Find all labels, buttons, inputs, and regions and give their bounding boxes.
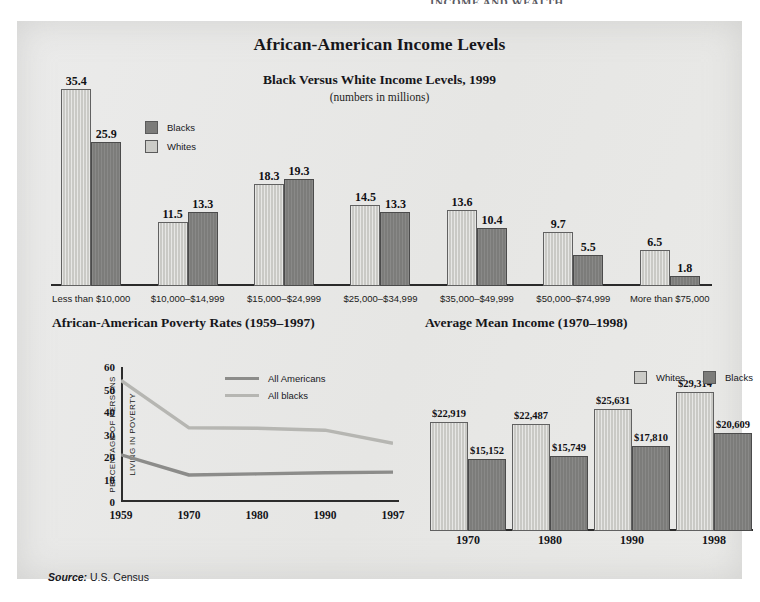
legend-item-whites-income: Whites	[634, 371, 685, 384]
chart1-bar-value-label: 5.5	[581, 240, 596, 255]
legend-line-all-blacks-icon	[225, 394, 259, 398]
chart1-group: 35.425.9	[43, 86, 139, 286]
legend-label-blacks-income: Blacks	[725, 372, 753, 383]
chart1-bar-blacks: 13.3	[380, 212, 410, 286]
figure-panel: African-American Income Levels Black Ver…	[17, 21, 742, 579]
chart1-bar-value-label: 1.8	[677, 261, 692, 276]
chart3-title: Average Mean Income (1970–1998)	[425, 315, 628, 331]
legend-swatch-whites-income-icon	[634, 371, 647, 384]
chart1-group: 18.319.3	[236, 86, 332, 286]
legend-label-whites: Whites	[167, 141, 196, 152]
chart3-bar-whites: $25,631	[594, 409, 632, 531]
chart1-bar-whites: 9.7	[543, 232, 573, 286]
chart3-bar-pair: $29,314$20,609	[673, 379, 755, 531]
chart1-category-label: $25,000–$34,999	[332, 293, 428, 304]
chart2-legend: All Americans All blacks	[225, 373, 326, 407]
chart1-bar-pair: 6.51.8	[622, 86, 718, 286]
chart1-bar-value-label: 35.4	[66, 74, 87, 89]
chart3-bar-whites: $22,487	[512, 424, 550, 531]
chart1-category-label: $15,000–$24,999	[236, 293, 332, 304]
chart3-group: $25,631$17,810	[591, 379, 673, 531]
legend-swatch-whites-icon	[145, 140, 158, 153]
legend-item-blacks: Blacks	[145, 121, 255, 134]
chart1-category-label: $35,000–$49,999	[429, 293, 525, 304]
chart2-title: African-American Poverty Rates (1959–199…	[52, 315, 315, 331]
legend-label-blacks: Blacks	[167, 122, 195, 133]
chart3-group: $22,919$15,152	[427, 379, 509, 531]
legend-item-whites: Whites	[145, 140, 255, 153]
chart2-x-tick-label: 1959	[110, 509, 133, 521]
chart1-legend: Blacks Whites	[145, 121, 255, 159]
chart1-bar-value-label: 13.3	[385, 197, 406, 212]
chart3-group: $22,487$15,749	[509, 379, 591, 531]
chart3-bar-pair: $22,487$15,749	[509, 379, 591, 531]
legend-swatch-blacks-income-icon	[703, 371, 716, 384]
chart1-bar-value-label: 13.6	[451, 195, 472, 210]
legend-label-all-blacks: All blacks	[268, 390, 308, 401]
chart2-x-tick-label: 1990	[314, 509, 337, 521]
legend-label-all-americans: All Americans	[268, 373, 326, 384]
chart1-group: 9.75.5	[525, 86, 621, 286]
chart1-bar-whites: 13.6	[447, 210, 477, 286]
chart1-bar-blacks: 1.8	[670, 276, 700, 286]
chart1-category-label: More than $75,000	[622, 293, 718, 304]
chart2-line-all-americans	[121, 455, 393, 475]
legend-item-all-blacks: All blacks	[225, 390, 326, 401]
chart1-bar-blacks: 19.3	[284, 179, 314, 286]
chart1-bar-pair: 18.319.3	[236, 86, 332, 286]
chart3-bar-pair: $22,919$15,152	[427, 379, 509, 531]
chart1-bar-blacks: 5.5	[573, 255, 603, 286]
chart3-category-label: 1990	[591, 533, 673, 548]
legend-line-all-americans-icon	[225, 377, 259, 381]
chart-african-american-poverty-rates: PERCENTAGE OF PERSONS LIVING IN POVERTY …	[35, 353, 415, 548]
legend-item-all-americans: All Americans	[225, 373, 326, 384]
chart3-group: $29,314$20,609	[673, 379, 755, 531]
chart1-bar-whites: 6.5	[640, 250, 670, 286]
source-value: U.S. Census	[90, 571, 149, 583]
chart3-category-label: 1980	[509, 533, 591, 548]
chart1-group: 14.513.3	[332, 86, 428, 286]
chart1-bar-pair: 14.513.3	[332, 86, 428, 286]
chart2-y-tick-label: 50	[104, 384, 115, 396]
chart3-bar-value-label: $15,749	[552, 442, 586, 453]
chart3-bar-value-label: $22,919	[432, 408, 466, 419]
chart1-group: 6.51.8	[622, 86, 718, 286]
chart1-bar-blacks: 10.4	[477, 228, 507, 286]
chart2-x-tick-label: 1970	[178, 509, 201, 521]
chart1-bar-value-label: 9.7	[551, 217, 566, 232]
chart1-bar-pair: 13.610.4	[429, 86, 525, 286]
chart3-bar-value-label: $25,631	[596, 395, 630, 406]
chart2-y-tick-label: 20	[104, 451, 115, 463]
legend-label-whites-income: Whites	[656, 372, 685, 383]
chart3-legend: Whites Blacks	[616, 371, 753, 384]
chart2-x-tick-label: 1980	[246, 509, 269, 521]
chart1-bar-value-label: 6.5	[647, 235, 662, 250]
chart3-bar-blacks: $15,152	[468, 459, 506, 531]
chart1-bar-blacks: 25.9	[91, 142, 121, 286]
legend-swatch-blacks-icon	[145, 121, 158, 134]
chart2-y-tick-label: 10	[104, 474, 115, 486]
chart3-bar-blacks: $20,609	[714, 433, 752, 531]
page-root: INCOME AND WEALTH African-American Incom…	[0, 0, 760, 602]
chart1-bar-value-label: 25.9	[96, 127, 117, 142]
chart3-category-label: 1970	[427, 533, 509, 548]
chart3-bar-blacks: $15,749	[550, 456, 588, 531]
legend-item-blacks-income: Blacks	[703, 371, 753, 384]
chart1-category-label: $10,000–$14,999	[139, 293, 235, 304]
chart-average-mean-income: $22,919$15,152$22,487$15,749$25,631$17,8…	[415, 353, 759, 553]
chart1-bar-blacks: 13.3	[188, 212, 218, 286]
chart1-bar-pair: 35.425.9	[43, 86, 139, 286]
chart3-bar-value-label: $17,810	[634, 432, 668, 443]
chart3-bar-blacks: $17,810	[632, 446, 670, 531]
chart3-bar-whites: $29,314	[676, 392, 714, 531]
chart1-bar-value-label: 19.3	[289, 164, 310, 179]
chart3-bar-whites: $22,919	[430, 422, 468, 531]
chart-black-versus-white-income-levels: 35.425.911.513.318.319.314.513.313.610.4…	[17, 73, 742, 313]
source-label: Source:	[48, 571, 87, 583]
chart1-bar-whites: 14.5	[350, 205, 380, 286]
chart3-category-label: 1998	[673, 533, 755, 548]
chart1-bar-pair: 11.513.3	[139, 86, 235, 286]
chart1-bar-value-label: 18.3	[259, 169, 280, 184]
chart2-x-tick-label: 1997	[382, 509, 405, 521]
chart2-y-tick-label: 60	[104, 361, 115, 373]
